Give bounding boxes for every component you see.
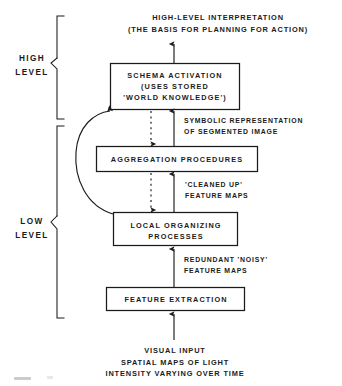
- edge-label-symbolic-representation: SYMBOLIC REPRESENTATION OF SEGMENTED IMA…: [184, 116, 303, 137]
- box-aggregation-procedures-line1: AGGREGATION PROCEDURES: [111, 154, 243, 165]
- box-aggregation-procedures-label: AGGREGATION PROCEDURES: [111, 154, 243, 165]
- edge-label-cleaned-up-feature-maps-line2: FEATURE MAPS: [185, 191, 248, 202]
- box-feature-extraction-label: FEATURE EXTRACTION: [124, 294, 227, 305]
- bottom-annotation-line3: INTENSITY VARYING OVER TIME: [105, 368, 244, 380]
- box-schema-activation-line3: 'WORLD KNOWLEDGE'): [123, 92, 227, 103]
- bracket-low-level: [51, 126, 64, 318]
- top-annotation-line1: HIGH-LEVEL INTERPRETATION: [128, 12, 308, 24]
- box-schema-activation-label: SCHEMA ACTIVATION (USES STORED 'WORLD KN…: [123, 70, 227, 103]
- scan-artifact-speck: [47, 376, 53, 379]
- bottom-annotation: VISUAL INPUT SPATIAL MAPS OF LIGHT INTEN…: [105, 345, 244, 380]
- box-local-organizing-processes-label: LOCAL ORGANIZING PROCESSES: [130, 220, 221, 242]
- level-label-low-line2: LEVEL: [15, 229, 48, 243]
- top-annotation-line2: (THE BASIS FOR PLANNING FOR ACTION): [128, 24, 308, 36]
- edge-label-redundant-noisy-feature-maps-line1: REDUNDANT 'NOISY': [184, 255, 268, 266]
- box-local-organizing-processes-line2: PROCESSES: [130, 231, 221, 242]
- bracket-high-level: [51, 16, 64, 119]
- bottom-annotation-line2: SPATIAL MAPS OF LIGHT: [105, 357, 244, 369]
- level-label-low-line1: LOW: [15, 215, 48, 229]
- diagram-vector-layer: [0, 0, 342, 386]
- edge-label-redundant-noisy-feature-maps-line2: FEATURE MAPS: [184, 266, 268, 277]
- scan-artifact-mark: [14, 377, 31, 380]
- level-label-high: HIGH LEVEL: [15, 52, 48, 80]
- edge-label-cleaned-up-feature-maps: 'CLEANED UP' FEATURE MAPS: [185, 180, 248, 201]
- edge-label-cleaned-up-feature-maps-line1: 'CLEANED UP': [185, 180, 248, 191]
- level-label-low: LOW LEVEL: [15, 215, 48, 243]
- box-local-organizing-processes-line1: LOCAL ORGANIZING: [130, 220, 221, 231]
- box-schema-activation-line1: SCHEMA ACTIVATION: [123, 70, 227, 81]
- edge-label-symbolic-representation-line1: SYMBOLIC REPRESENTATION: [184, 116, 303, 127]
- level-label-high-line1: HIGH: [15, 52, 48, 66]
- top-annotation: HIGH-LEVEL INTERPRETATION (THE BASIS FOR…: [128, 12, 308, 35]
- box-feature-extraction-line1: FEATURE EXTRACTION: [124, 294, 227, 305]
- edge-label-symbolic-representation-line2: OF SEGMENTED IMAGE: [184, 127, 303, 138]
- edge-label-redundant-noisy-feature-maps: REDUNDANT 'NOISY' FEATURE MAPS: [184, 255, 268, 276]
- figure-canvas: HIGH-LEVEL INTERPRETATION (THE BASIS FOR…: [0, 0, 342, 386]
- box-schema-activation-line2: (USES STORED: [123, 81, 227, 92]
- bottom-annotation-line1: VISUAL INPUT: [105, 345, 244, 357]
- level-label-high-line2: LEVEL: [15, 66, 48, 80]
